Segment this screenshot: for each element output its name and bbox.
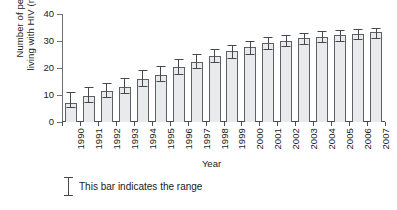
bar-group <box>331 14 349 122</box>
x-axis-tick-label: 1992 <box>111 128 122 150</box>
bar-group <box>116 14 134 122</box>
error-bar <box>282 35 291 47</box>
x-axis-tick-label: 2007 <box>380 128 391 150</box>
x-axis-tick-label: 1990 <box>75 128 86 150</box>
bar <box>244 47 256 122</box>
error-bar <box>102 83 111 98</box>
y-axis-tick-label: 30 <box>43 35 54 46</box>
error-bar <box>228 45 237 59</box>
error-bar <box>84 87 93 103</box>
error-bar <box>336 30 345 41</box>
x-axis-tick-label: 1999 <box>236 128 247 150</box>
x-axis-tick-label: 1998 <box>219 128 230 150</box>
bar-group <box>134 14 152 122</box>
x-axis-tick-label: 1996 <box>183 128 194 150</box>
error-bar-icon <box>64 177 73 196</box>
x-axis-tick-label: 2003 <box>308 128 319 150</box>
bar <box>298 38 310 122</box>
x-axis-tick <box>98 122 99 126</box>
y-axis-title-line-2: living with HIV (millions) <box>25 0 37 70</box>
y-axis-tick-label: 40 <box>43 8 54 19</box>
error-bar <box>246 41 255 55</box>
error-bar <box>372 28 381 39</box>
bar <box>209 56 221 122</box>
bar-group <box>224 14 242 122</box>
y-axis-title-line-1: Number of people <box>14 0 26 58</box>
bar-group <box>259 14 277 122</box>
x-axis-tick-label: 1995 <box>165 128 176 150</box>
y-axis-tick-label: 0 <box>49 116 54 127</box>
bar-series <box>62 14 385 122</box>
x-axis-tick <box>134 122 135 126</box>
bar-group <box>367 14 385 122</box>
bar <box>316 37 328 122</box>
x-axis-tick <box>313 122 314 126</box>
x-axis-tick <box>295 122 296 126</box>
x-axis-tick <box>188 122 189 126</box>
x-axis-tick <box>349 122 350 126</box>
bar-group <box>152 14 170 122</box>
error-bar <box>66 92 75 109</box>
bar-group <box>188 14 206 122</box>
bar-group <box>241 14 259 122</box>
error-bar <box>192 54 201 69</box>
bar-group <box>313 14 331 122</box>
hiv-prevalence-bar-chart: Number of people living with HIV (millio… <box>0 0 397 210</box>
x-axis-tick <box>367 122 368 126</box>
x-axis-tick-label: 2000 <box>254 128 265 150</box>
bar-group <box>62 14 80 122</box>
x-axis-tick <box>206 122 207 126</box>
x-axis-tick <box>116 122 117 126</box>
bar-group <box>277 14 295 122</box>
x-axis-tick-label: 2005 <box>344 128 355 150</box>
bar-group <box>349 14 367 122</box>
error-bar <box>210 49 219 64</box>
bar <box>191 62 203 122</box>
x-axis-tick-label: 1993 <box>129 128 140 150</box>
bar-group <box>170 14 188 122</box>
bar <box>370 32 382 122</box>
x-axis-tick <box>385 122 386 126</box>
x-axis-tick-label: 2006 <box>362 128 373 150</box>
x-axis-tick <box>241 122 242 126</box>
x-axis-tick <box>62 122 63 126</box>
x-axis-tick <box>152 122 153 126</box>
x-axis-tick <box>259 122 260 126</box>
x-axis-tick <box>331 122 332 126</box>
x-axis-tick-label: 2001 <box>272 128 283 150</box>
bar <box>262 43 274 122</box>
x-axis-tick <box>170 122 171 126</box>
bar <box>280 41 292 122</box>
chart-legend: This bar indicates the range <box>64 177 202 196</box>
error-bar <box>264 37 273 50</box>
error-bar <box>318 31 327 43</box>
x-axis-tick <box>80 122 81 126</box>
error-bar <box>138 70 147 87</box>
bar-group <box>206 14 224 122</box>
error-bar <box>354 29 363 40</box>
y-axis-tick-label: 10 <box>43 89 54 100</box>
error-bar <box>156 66 165 82</box>
plot-area: 010203040 199019911992199319941995199619… <box>62 14 385 122</box>
x-axis-tick-label: 1994 <box>147 128 158 150</box>
error-bar <box>300 33 309 45</box>
x-axis-tick-label: 1997 <box>201 128 212 150</box>
x-axis-tick <box>277 122 278 126</box>
bar-group <box>295 14 313 122</box>
bar-group <box>98 14 116 122</box>
x-axis-title: Year <box>0 158 397 169</box>
x-axis-tick-label: 2004 <box>326 128 337 150</box>
error-bar <box>120 78 129 94</box>
x-axis-tick <box>224 122 225 126</box>
bar <box>352 34 364 122</box>
y-axis-title: Number of people living with HIV (millio… <box>10 0 40 84</box>
legend-label: This bar indicates the range <box>79 181 202 192</box>
bar <box>334 35 346 122</box>
bar <box>226 51 238 122</box>
bar <box>173 67 185 122</box>
x-axis-tick-label: 1991 <box>93 128 104 150</box>
y-axis-tick-label: 20 <box>43 62 54 73</box>
bar-group <box>80 14 98 122</box>
error-bar <box>174 59 183 75</box>
x-axis-tick-label: 2002 <box>290 128 301 150</box>
